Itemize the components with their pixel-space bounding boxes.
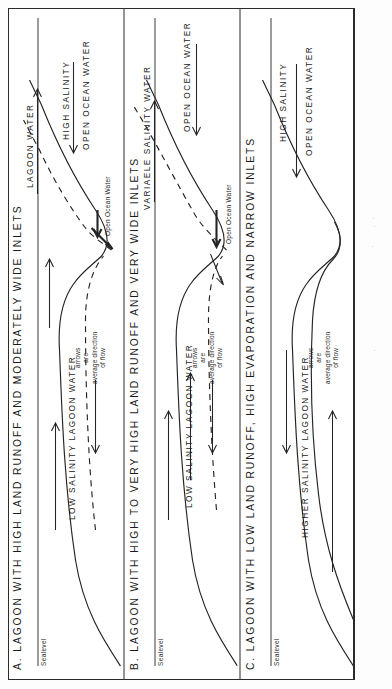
panel-a-ocean-label-2: OPEN OCEAN WATER xyxy=(82,40,91,150)
panel-a-legend: arrows are average direction of flow xyxy=(74,332,108,384)
panel-b: B. LAGOON WITH HIGH TO VERY HIGH LAND RU… xyxy=(124,8,238,680)
panel-a-legend-line1: arrows xyxy=(74,332,82,384)
panel-b-legend: arrows are average direction of flow xyxy=(191,332,225,384)
figure-frame: A. LAGOON WITH HIGH LAND RUNOFF AND MODE… xyxy=(8,8,355,680)
rotated-figure-canvas: A. LAGOON WITH HIGH LAND RUNOFF AND MODE… xyxy=(8,8,355,680)
panel-c-legend-line1: arrows xyxy=(307,332,315,384)
panel-c-legend-line4: of flow xyxy=(332,332,340,384)
panel-c-ocean-label: HIGH SALINITY xyxy=(279,63,288,142)
panel-a-legend-line2: are xyxy=(82,332,90,384)
panel-b-legend-line1: arrows xyxy=(191,332,199,384)
scan-speckle xyxy=(372,246,373,247)
panel-c-ocean-label-2: OPEN OCEAN WATER xyxy=(305,46,314,156)
panel-b-legend-line3: average direction xyxy=(207,332,215,384)
panel-a-outflow-label: LAGOON WATER xyxy=(26,103,35,188)
panel-c-legend: arrows are average direction of flow xyxy=(307,332,341,384)
panel-a-legend-line4: of flow xyxy=(99,332,107,384)
panel-b-legend-line4: of flow xyxy=(216,332,224,384)
panel-c-legend-line2: are xyxy=(315,332,323,384)
scan-speckle xyxy=(374,226,375,227)
panel-b-outflow-label: VARIAELE SALINITY WATER xyxy=(143,65,152,210)
panel-a-ocean-label: HIGH SALINITY xyxy=(62,61,71,140)
panel-c: C. LAGOON WITH LOW LAND RUNOFF, HIGH EVA… xyxy=(240,8,354,680)
panel-b-bottom-label: Open Ocean Water xyxy=(225,184,232,244)
scan-speckle xyxy=(373,218,374,219)
panel-b-legend-line2: are xyxy=(199,332,207,384)
panel-a: A. LAGOON WITH HIGH LAND RUNOFF AND MODE… xyxy=(8,8,122,680)
panel-a-bottom-label: Open Ocean Water xyxy=(104,176,111,236)
panel-a-legend-line3: average direction xyxy=(90,332,98,384)
panel-c-legend-line3: average direction xyxy=(323,332,331,384)
panel-b-ocean-label-2: OPEN OCEAN WATER xyxy=(183,22,192,132)
scan-speckle xyxy=(374,350,375,351)
